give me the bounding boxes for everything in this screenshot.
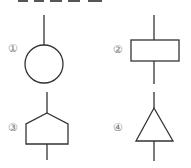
pentagon-icon [26,92,68,160]
label-4: ④ [113,122,123,133]
symbols-diagram [0,0,191,168]
label-2: ② [113,44,123,55]
rectangle-icon [131,15,179,84]
label-3: ③ [8,122,18,133]
circle-icon [25,15,63,83]
label-1: ① [8,43,18,54]
triangle-icon [136,92,173,161]
